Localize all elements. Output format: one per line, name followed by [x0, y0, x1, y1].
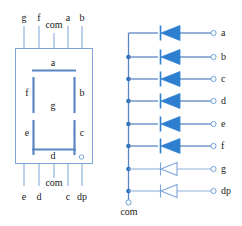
terminal-dp-icon[interactable] — [211, 188, 216, 193]
terminal-e-icon[interactable] — [211, 121, 216, 126]
circuit-terminal-label-a: a — [221, 28, 237, 38]
segment-label-b: b — [77, 88, 87, 98]
diode-row-d — [129, 94, 217, 109]
top-pin-label-a: a — [63, 13, 73, 23]
diode-row-b — [129, 50, 217, 65]
circuit-terminal-label-d: d — [221, 96, 237, 106]
bottom-pin-label-d: d — [34, 192, 44, 202]
diode-row-g — [129, 163, 217, 176]
bottom-pin-label-dp: dp — [74, 192, 90, 202]
diode-triangle-d — [161, 94, 180, 109]
terminal-b-icon[interactable] — [211, 54, 216, 59]
diode-row-dp — [129, 185, 217, 198]
segment-label-c: c — [77, 128, 87, 138]
bottom-pin-label-c: c — [63, 192, 73, 202]
segment-label-g: g — [48, 101, 58, 111]
circuit-terminal-label-g: g — [221, 164, 237, 174]
top-pin-label-b: b — [77, 13, 87, 23]
diode-triangle-g — [161, 163, 177, 176]
circuit-terminal-label-c: c — [221, 74, 237, 84]
top-pin-label-g: g — [19, 13, 29, 23]
diode-triangle-a — [161, 26, 180, 41]
terminal-d-icon[interactable] — [211, 98, 216, 103]
bottom-pin-label-com: com — [42, 178, 66, 188]
terminal-g-icon[interactable] — [211, 166, 216, 171]
circuit-terminal-label-e: e — [221, 119, 237, 129]
diode-triangle-c — [161, 72, 180, 87]
diode-row-c — [129, 72, 217, 87]
circuit-com-label: com — [117, 207, 141, 217]
segment-label-e: e — [22, 128, 32, 138]
diode-row-e — [129, 117, 217, 132]
circuit-terminal-label-b: b — [221, 52, 237, 62]
diode-triangle-b — [161, 50, 180, 65]
diode-row-a — [129, 26, 217, 41]
com-terminal-icon[interactable] — [126, 200, 131, 205]
terminal-a-icon[interactable] — [211, 30, 216, 35]
diagram-root: g f com a b e d com c dp a f b g e c d a… — [0, 0, 242, 226]
circuit-terminal-label-f: f — [221, 141, 237, 151]
diode-triangle-e — [161, 117, 180, 132]
circuit-terminal-label-dp: dp — [221, 186, 239, 196]
diode-triangle-f — [161, 139, 180, 154]
segment-label-d: d — [48, 151, 58, 161]
segment-label-a: a — [48, 58, 58, 68]
segment-label-f: f — [22, 88, 32, 98]
terminal-c-icon[interactable] — [211, 76, 216, 81]
terminal-f-icon[interactable] — [211, 143, 216, 148]
bottom-pin-label-e: e — [19, 192, 29, 202]
decimal-point-icon — [79, 155, 83, 159]
diode-row-f — [129, 139, 217, 154]
diode-triangle-dp — [161, 185, 177, 198]
